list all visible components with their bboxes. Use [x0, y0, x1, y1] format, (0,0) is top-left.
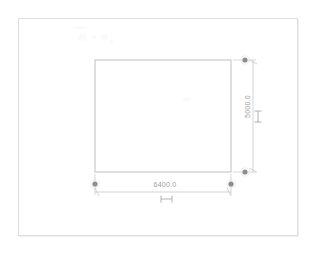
rectangle-shape[interactable]: [95, 60, 231, 172]
drawing-surface: [0, 0, 316, 254]
grip-top-right[interactable]: [242, 57, 247, 62]
dimension-handle-icon-horizontal[interactable]: [161, 196, 172, 203]
cad-drawing-canvas[interactable]: 6400.0 5000.0: [0, 0, 316, 254]
dimension-label-horizontal[interactable]: 6400.0: [143, 181, 187, 188]
dimension-handle-icon-vertical[interactable]: [255, 111, 262, 122]
grip-bottom-right-horizontal[interactable]: [228, 181, 233, 186]
dimension-label-vertical[interactable]: 5000.0: [244, 85, 251, 129]
grip-bottom-left[interactable]: [92, 181, 97, 186]
grip-bottom-right[interactable]: [242, 169, 247, 174]
